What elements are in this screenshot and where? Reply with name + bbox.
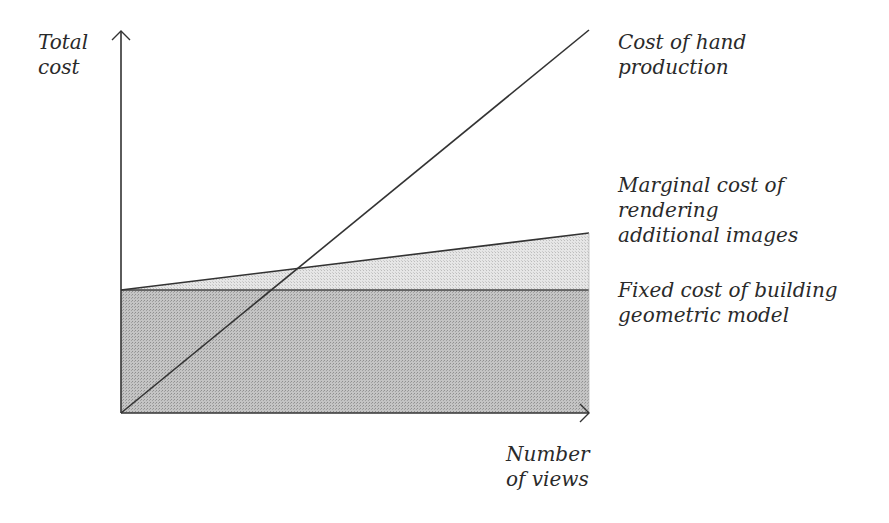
fixed-cost-area (121, 290, 589, 413)
x-axis-label-line2: of views (506, 467, 590, 492)
y-axis-label: Total cost (38, 30, 88, 80)
hand-label-line1: Cost of hand (618, 30, 746, 55)
fixed-label-line1: Fixed cost of building (618, 278, 838, 303)
x-axis-label: Number of views (506, 442, 590, 492)
fixed-cost-label: Fixed cost of building geometric model (618, 278, 838, 328)
marginal-label-line2: rendering (618, 198, 798, 223)
marginal-label-line1: Marginal cost of (618, 173, 798, 198)
y-axis-label-line2: cost (38, 55, 88, 80)
y-axis-label-line1: Total (38, 30, 88, 55)
hand-production-label: Cost of hand production (618, 30, 746, 80)
marginal-label-line3: additional images (618, 223, 798, 248)
marginal-cost-label: Marginal cost of rendering additional im… (618, 173, 798, 248)
hand-label-line2: production (618, 55, 746, 80)
fixed-label-line2: geometric model (618, 303, 838, 328)
x-axis-label-line1: Number (506, 442, 590, 467)
cost-diagram (0, 0, 889, 523)
